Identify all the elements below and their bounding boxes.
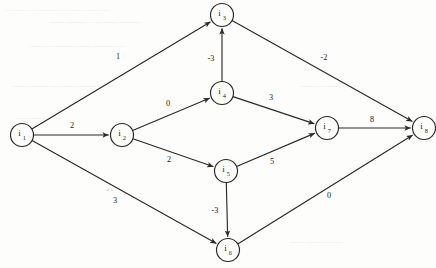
bleed-text: — —— — ——— — —— —— — — [5, 6, 110, 14]
edge-weight-i4-i7: 3 — [269, 93, 273, 102]
node-i3: i3 — [211, 4, 234, 27]
bleed-text: —— ——— —— — [289, 238, 344, 246]
edge-weight-i1-i3: 1 — [116, 52, 120, 61]
node-i7: i7 — [316, 117, 339, 140]
node-subscript: 2 — [123, 134, 126, 141]
node-subscript: 1 — [23, 134, 26, 141]
edge-weight-i6-i8: 0 — [327, 191, 331, 200]
node-subscript: 3 — [223, 14, 226, 21]
edge-weight-i1-i6: 3 — [113, 196, 117, 205]
edge-i3-to-i8 — [232, 21, 412, 122]
bleed-text: —— — ——— —— ——— — — [29, 42, 124, 50]
edge-i1-to-i6 — [32, 141, 216, 244]
edge-i1-to-i3 — [32, 22, 210, 129]
edge-i4-to-i7 — [233, 97, 314, 124]
edge-layer — [32, 21, 413, 244]
edge-weight-i2-i4: 0 — [166, 99, 170, 108]
node-subscript: 6 — [229, 249, 232, 256]
edge-weight-i7-i8: 8 — [370, 115, 374, 124]
edge-weight-i1-i2: 2 — [70, 121, 74, 130]
node-i2: i2 — [111, 124, 134, 147]
bleed-text: —— — ——— — [299, 82, 347, 90]
node-subscript: 8 — [425, 127, 428, 134]
ink-smudge — [107, 189, 110, 192]
edge-weight-i2-i5: 2 — [167, 155, 171, 164]
background-showthrough: — —— — ——— — —— —— ——— ——— —— —— ————— —… — [5, 6, 347, 246]
edge-i6-to-i8 — [238, 135, 413, 244]
edge-i5-to-i7 — [237, 133, 315, 166]
node-i5: i5 — [215, 160, 238, 183]
edge-weight-i3-i8: -2 — [321, 53, 328, 62]
node-i1: i1 — [11, 124, 34, 147]
node-subscript: 5 — [227, 170, 230, 177]
edge-i5-to-i6 — [226, 182, 227, 236]
edge-i2-to-i5 — [133, 139, 213, 167]
edge-weight-i5-i6: -3 — [212, 206, 219, 215]
node-i4: i4 — [211, 82, 234, 105]
bleed-text: —— ——— — —— ——— —— — [11, 82, 113, 90]
bleed-text: —— ——— —— —— ——— — [49, 18, 142, 26]
edge-weight-i4-i3: -3 — [208, 54, 215, 63]
node-i8: i8 — [413, 117, 436, 140]
node-i6: i6 — [217, 239, 240, 262]
edge-weight-i5-i7: 5 — [270, 157, 274, 166]
ink-smudge — [111, 189, 113, 191]
edge-i2-to-i4 — [133, 98, 210, 130]
graph-canvas: — —— — ——— — —— —— ——— ——— —— —— ————— —… — [0, 0, 436, 268]
